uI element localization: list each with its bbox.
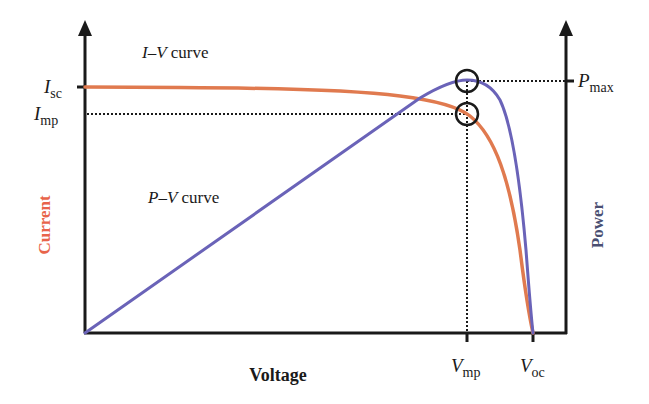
pmax-label: Pmax [577, 70, 614, 95]
x-axis-title: Voltage [249, 365, 306, 385]
right-y-axis-arrow-icon [559, 20, 573, 36]
iv-pv-chart: I–V curve P–V curve Isc Imp Pmax Vmp Voc… [0, 0, 649, 404]
left-y-axis-arrow-icon [78, 20, 92, 36]
iv-curve-label: I–V curve [141, 43, 209, 62]
reference-lines [87, 81, 566, 333]
left-y-axis-title: Current [35, 195, 54, 255]
vmp-label: Vmp [451, 355, 481, 380]
isc-label: Isc [43, 76, 62, 101]
voc-label: Voc [520, 355, 545, 380]
pv-curve-label: P–V curve [147, 188, 219, 207]
tick-marks [77, 81, 574, 342]
imp-label: Imp [33, 103, 58, 128]
right-y-axis-title: Power [588, 201, 607, 248]
